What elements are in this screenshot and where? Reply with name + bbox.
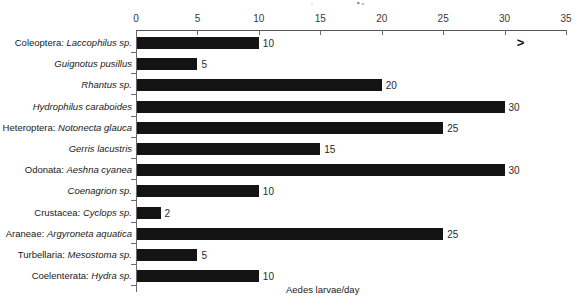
y-tick [131, 137, 136, 138]
bar-value-label: 2 [165, 208, 171, 220]
x-tick-label: 10 [253, 13, 264, 24]
y-tick [131, 285, 136, 286]
bar-value-label: 25 [447, 229, 458, 241]
x-tick-label: 20 [376, 13, 387, 24]
y-tick [131, 200, 136, 201]
y-tick [131, 222, 136, 223]
x-axis-title: Aedes larvae/day [286, 284, 359, 295]
bar-value-label: 30 [509, 165, 520, 177]
bar [137, 270, 259, 282]
x-tick-label: 30 [499, 13, 510, 24]
category-label-species: Coenagrion sp. [68, 185, 132, 196]
bar-chart: 05101520253035 Coleoptera: Laccophilus s… [0, 0, 584, 306]
category-label-species: Laccophilus sp. [67, 37, 132, 48]
x-tick-label: 15 [315, 13, 326, 24]
category-label-prefix: Odonata: [25, 164, 67, 175]
x-tick [197, 30, 198, 35]
bar-value-label: 5 [201, 250, 207, 262]
greater-than-marker: > [517, 37, 525, 49]
x-tick-label: 35 [560, 13, 571, 24]
x-tick-label: 5 [195, 13, 201, 24]
category-label-species: Hydra sp. [91, 270, 132, 281]
bar-value-label: 30 [509, 102, 520, 114]
bar [137, 37, 259, 49]
category-label: Coleoptera: Laccophilus sp. [15, 37, 132, 49]
category-label: Rhantus sp. [81, 79, 132, 91]
scan-artifact [290, 1, 400, 6]
x-axis-line [136, 30, 566, 31]
category-label-species: Cyclops sp. [83, 207, 132, 218]
category-label-prefix: Coleoptera: [15, 37, 67, 48]
category-label: Araneae: Argyroneta aquatica [6, 228, 132, 240]
category-label-species: Rhantus sp. [81, 79, 132, 90]
x-tick-label: 25 [438, 13, 449, 24]
category-label: Crustacea: Cyclops sp. [34, 207, 132, 219]
bar [137, 122, 443, 134]
bar [137, 249, 197, 261]
bar-value-label: 15 [324, 144, 335, 156]
bar [137, 185, 259, 197]
category-label-species: Aeshna cyanea [67, 164, 133, 175]
category-label-species: Mesostoma sp. [68, 249, 132, 260]
x-tick [566, 30, 567, 35]
y-tick [131, 116, 136, 117]
category-label: Guignotus pusillus [54, 58, 132, 70]
y-tick [131, 158, 136, 159]
category-label-prefix: Crustacea: [34, 207, 83, 218]
category-label-species: Argyroneta aquatica [47, 228, 132, 239]
x-tick-label: 0 [133, 13, 139, 24]
x-tick [259, 30, 260, 35]
bar [137, 207, 161, 219]
bar-value-label: 20 [386, 80, 397, 92]
category-label-prefix: Araneae: [6, 228, 47, 239]
category-label-species: Notonecta glauca [58, 122, 132, 133]
bar-value-label: 25 [447, 123, 458, 135]
category-label: Heteroptera: Notonecta glauca [3, 122, 132, 134]
bar-value-label: 5 [201, 59, 207, 71]
x-tick [382, 30, 383, 35]
bar [137, 164, 505, 176]
x-tick [443, 30, 444, 35]
bar [137, 101, 505, 113]
category-label: Gerris lacustris [69, 143, 132, 155]
category-label: Turbellaria: Mesostoma sp. [18, 249, 132, 261]
bar [137, 143, 320, 155]
x-tick [320, 30, 321, 35]
category-label-prefix: Heteroptera: [3, 122, 58, 133]
bar-value-label: 10 [263, 38, 274, 50]
category-label-species: Gerris lacustris [69, 143, 132, 154]
category-label: Odonata: Aeshna cyanea [25, 164, 132, 176]
bar-value-label: 10 [263, 271, 274, 283]
y-tick [131, 243, 136, 244]
x-tick [505, 30, 506, 35]
category-label: Hydrophilus caraboides [33, 101, 132, 113]
category-label: Coenagrion sp. [68, 185, 132, 197]
category-label: Coelenterata: Hydra sp. [32, 270, 132, 282]
x-tick [136, 30, 137, 35]
y-tick [131, 73, 136, 74]
bar [137, 58, 197, 70]
category-label-species: Hydrophilus caraboides [33, 101, 132, 112]
category-label-prefix: Coelenterata: [32, 270, 92, 281]
y-tick [131, 94, 136, 95]
category-label-prefix: Turbellaria: [18, 249, 68, 260]
y-tick [131, 52, 136, 53]
bar [137, 228, 443, 240]
y-tick [131, 179, 136, 180]
bar [137, 79, 382, 91]
y-tick [131, 264, 136, 265]
category-label-species: Guignotus pusillus [54, 58, 132, 69]
bar-value-label: 10 [263, 186, 274, 198]
